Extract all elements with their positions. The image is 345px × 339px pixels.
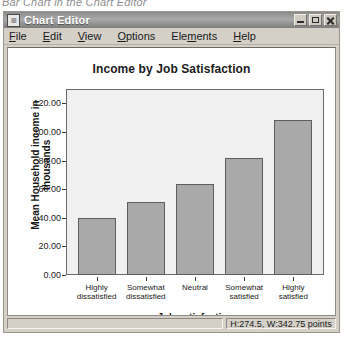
- menu-item-file[interactable]: File: [9, 29, 36, 43]
- window-controls: [294, 14, 337, 26]
- chart-title: Income by Job Satisfaction: [8, 62, 335, 76]
- menu-bar: File Edit View Options Elements Help: [4, 28, 339, 45]
- chart-icon: ▥: [7, 14, 20, 27]
- y-tick-label: 120.00: [33, 98, 66, 108]
- x-tick-label: Highlysatisfied: [269, 277, 317, 311]
- y-tick-label: 60.00: [38, 184, 66, 194]
- bar[interactable]: [225, 158, 263, 275]
- maximize-icon[interactable]: [309, 14, 322, 26]
- status-pane-left: [7, 318, 223, 329]
- bar[interactable]: [78, 218, 116, 275]
- x-tick-label: Somewhatdissatisfied: [122, 277, 170, 311]
- y-tick-label: 80.00: [38, 156, 66, 166]
- bar[interactable]: [127, 202, 165, 275]
- y-axis-ticks: 0.0020.0040.0060.0080.00100.00120.00: [8, 89, 66, 275]
- x-tick-label: Highlydissatisfied: [73, 277, 121, 311]
- status-bar: H:274.5, W:342.75 points: [4, 316, 339, 332]
- menu-item-options[interactable]: Options: [117, 29, 164, 43]
- y-tick-label: 20.00: [38, 241, 66, 251]
- x-axis-ticks: HighlydissatisfiedSomewhatdissatisfiedNe…: [66, 277, 324, 311]
- bar[interactable]: [176, 184, 214, 275]
- menu-item-elements[interactable]: Elements: [171, 29, 226, 43]
- status-size-readout: H:274.5, W:342.75 points: [226, 318, 336, 329]
- menu-item-edit[interactable]: Edit: [43, 29, 71, 43]
- y-tick-label: 0.00: [43, 270, 66, 280]
- figure-caption: Bar Chart in the Chart Editor: [2, 0, 147, 8]
- close-icon[interactable]: [324, 14, 337, 26]
- bar-series: [66, 89, 324, 275]
- menu-item-view[interactable]: View: [78, 29, 111, 43]
- bar[interactable]: [274, 120, 312, 275]
- menu-item-help[interactable]: Help: [233, 29, 265, 43]
- y-tick-label: 100.00: [33, 127, 66, 137]
- plot-area[interactable]: [66, 89, 324, 275]
- x-tick-label: Somewhatsatisfied: [220, 277, 268, 311]
- chart-canvas[interactable]: Income by Job Satisfaction Mean Househol…: [7, 47, 336, 316]
- x-tick-label: Neutral: [171, 277, 219, 311]
- x-axis-title: Job satisfaction: [66, 312, 325, 316]
- title-bar[interactable]: ▥ Chart Editor: [4, 12, 339, 28]
- y-tick-label: 40.00: [38, 213, 66, 223]
- chart-editor-window: ▥ Chart Editor File Edit View Options El…: [3, 11, 340, 333]
- window-title: Chart Editor: [24, 14, 294, 26]
- minimize-icon[interactable]: [294, 14, 307, 26]
